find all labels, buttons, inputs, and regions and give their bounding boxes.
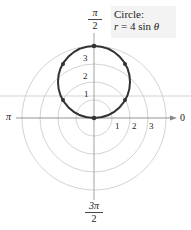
radial-tick-vertical-2: 2 bbox=[83, 72, 88, 81]
radial-tick-horizontal-1: 1 bbox=[115, 122, 120, 131]
angle-bottom-denominator: 2 bbox=[85, 213, 103, 224]
radial-tick-vertical-1: 1 bbox=[84, 90, 89, 99]
angle-top-numerator: π bbox=[88, 8, 102, 20]
angle-bottom-numerator: 3π bbox=[85, 201, 103, 213]
angle-label-0: 0 bbox=[180, 113, 185, 123]
caption-equals-sin: = 4 sin bbox=[118, 20, 154, 32]
radial-tick-vertical-3: 3 bbox=[83, 54, 88, 63]
arrow-icon bbox=[170, 116, 177, 121]
caption-equation: r = 4 sin θ bbox=[114, 20, 176, 32]
caption-title: Circle: bbox=[114, 8, 176, 20]
point-origin bbox=[92, 116, 97, 121]
angle-label-pi: π bbox=[6, 112, 11, 122]
caption-theta: θ bbox=[154, 20, 159, 32]
radial-tick-horizontal-2: 2 bbox=[132, 122, 137, 131]
radial-tick-horizontal-3: 3 bbox=[149, 122, 154, 131]
point-pi-6 bbox=[123, 98, 127, 102]
point-5pi-6 bbox=[61, 98, 65, 102]
point-2pi-3 bbox=[61, 62, 65, 66]
point-pi-2 bbox=[92, 44, 97, 49]
angle-top-denominator: 2 bbox=[88, 20, 102, 31]
point-pi-3 bbox=[123, 62, 127, 66]
chart-caption: Circle: r = 4 sin θ bbox=[111, 6, 176, 38]
angle-label-pi-over-2: π 2 bbox=[88, 8, 102, 31]
angle-label-3pi-over-2: 3π 2 bbox=[85, 201, 103, 224]
